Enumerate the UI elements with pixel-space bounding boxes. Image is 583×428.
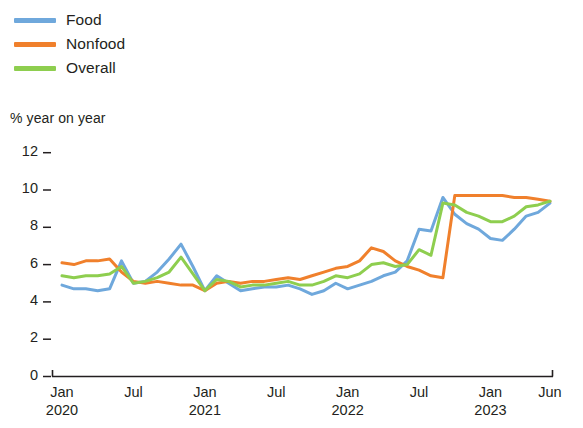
x-tick-label: Jan2021 xyxy=(175,383,235,419)
x-tick-month: Jan xyxy=(175,383,235,401)
x-tick-label: Jul xyxy=(389,383,449,401)
y-axis-ticks xyxy=(43,153,51,377)
series-line-food xyxy=(62,197,550,294)
x-tick-label: Jan2023 xyxy=(460,383,520,419)
inflation-line-chart: Food Nonfood Overall % year on year 0246… xyxy=(0,0,583,428)
y-tick-label: 10 xyxy=(12,180,38,196)
x-tick-month: Jan xyxy=(32,383,92,401)
x-tick-month: Jul xyxy=(103,383,163,401)
x-tick-label: Jul xyxy=(246,383,306,401)
x-tick-label: Jul xyxy=(103,383,163,401)
y-tick-label: 0 xyxy=(12,367,38,383)
x-tick-year: 2020 xyxy=(32,401,92,419)
data-series-lines xyxy=(62,196,550,295)
y-tick-label: 12 xyxy=(12,143,38,159)
y-tick-label: 2 xyxy=(12,329,38,345)
y-tick-label: 4 xyxy=(12,292,38,308)
x-tick-month: Jun xyxy=(520,383,580,401)
plot-area xyxy=(0,0,583,428)
x-tick-month: Jan xyxy=(318,383,378,401)
y-tick-label: 8 xyxy=(12,217,38,233)
axis-lines xyxy=(52,370,553,377)
x-tick-year: 2021 xyxy=(175,401,235,419)
x-tick-month: Jan xyxy=(460,383,520,401)
x-tick-label: Jan2022 xyxy=(318,383,378,419)
x-tick-label: Jan2020 xyxy=(32,383,92,419)
x-tick-month: Jul xyxy=(246,383,306,401)
series-line-nonfood xyxy=(62,196,550,291)
x-tick-year: 2023 xyxy=(460,401,520,419)
x-tick-year: 2022 xyxy=(318,401,378,419)
y-tick-label: 6 xyxy=(12,255,38,271)
x-tick-month: Jul xyxy=(389,383,449,401)
x-tick-label: Jun xyxy=(520,383,580,401)
